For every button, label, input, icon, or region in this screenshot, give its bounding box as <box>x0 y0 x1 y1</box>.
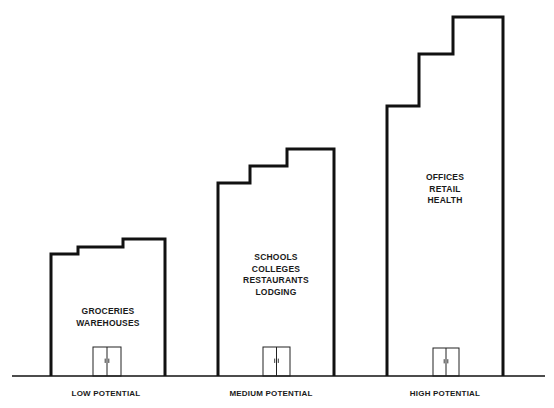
use-item: GROCERIES <box>58 306 158 318</box>
use-item: COLLEGES <box>226 264 326 276</box>
door-icon <box>433 348 459 376</box>
use-item: RESTAURANTS <box>226 275 326 287</box>
use-item: HEALTH <box>395 195 495 207</box>
uses-label-high: OFFICES RETAIL HEALTH <box>395 172 495 207</box>
use-item: SCHOOLS <box>226 252 326 264</box>
use-item: RETAIL <box>395 184 495 196</box>
category-label-high: HIGH POTENTIAL <box>385 389 505 398</box>
door-icon <box>93 347 121 376</box>
use-item: WAREHOUSES <box>58 318 158 330</box>
uses-label-low: GROCERIES WAREHOUSES <box>58 306 158 329</box>
door-icon <box>263 347 290 376</box>
use-item: LODGING <box>226 287 326 299</box>
category-label-medium: MEDIUM POTENTIAL <box>211 389 331 398</box>
category-label-low: LOW POTENTIAL <box>56 389 156 398</box>
use-item: OFFICES <box>395 172 495 184</box>
uses-label-medium: SCHOOLS COLLEGES RESTAURANTS LODGING <box>226 252 326 298</box>
